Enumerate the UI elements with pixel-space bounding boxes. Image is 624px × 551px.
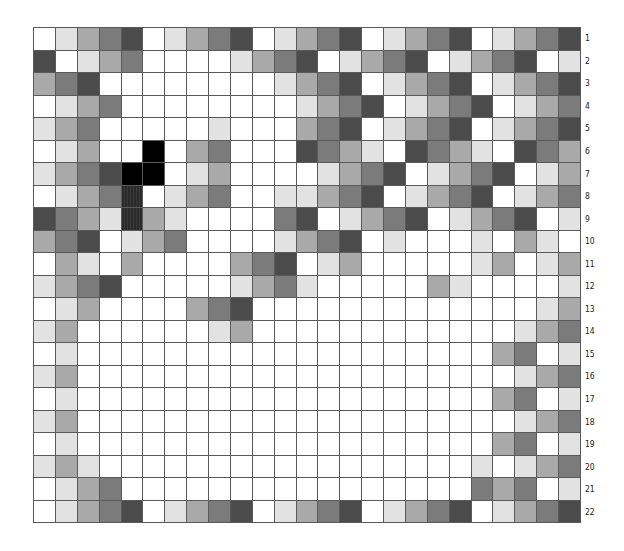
grid-cell <box>450 411 472 434</box>
row-label: 13 <box>585 298 611 321</box>
grid-cell <box>209 411 231 434</box>
grid-cell <box>428 51 450 74</box>
grid-cell <box>122 208 144 231</box>
grid-cell <box>56 433 78 456</box>
grid-cell <box>472 28 494 51</box>
grid-cell <box>428 456 450 479</box>
grid-cell <box>34 96 56 119</box>
grid-cell <box>231 28 253 51</box>
grid-cell <box>406 141 428 164</box>
grid-cell <box>384 118 406 141</box>
grid-cell <box>165 231 187 254</box>
grid-cell <box>165 208 187 231</box>
grid-cell <box>231 298 253 321</box>
grid-cell <box>187 186 209 209</box>
grid-cell <box>34 388 56 411</box>
grid-cell <box>559 208 581 231</box>
grid-cell <box>340 208 362 231</box>
row-label: 21 <box>585 478 611 501</box>
grid-cell <box>187 118 209 141</box>
grid-cell <box>384 456 406 479</box>
grid-cell <box>559 411 581 434</box>
grid-cell <box>122 478 144 501</box>
grid-cell <box>318 118 340 141</box>
grid-cell <box>384 388 406 411</box>
row-label: 19 <box>585 433 611 456</box>
grid-cell <box>143 478 165 501</box>
grid-cell <box>143 186 165 209</box>
grid-cell <box>362 433 384 456</box>
grid-cell <box>143 298 165 321</box>
grid-cell <box>122 343 144 366</box>
grid-cell <box>78 501 100 524</box>
grid-cell <box>537 298 559 321</box>
grid-cell <box>450 73 472 96</box>
grid-cell <box>428 141 450 164</box>
grid-cell <box>318 231 340 254</box>
grid-cell <box>187 456 209 479</box>
grid-cell <box>340 96 362 119</box>
grid-cell <box>165 276 187 299</box>
grid-cell <box>122 276 144 299</box>
grid-cell <box>78 186 100 209</box>
grid-cell <box>78 96 100 119</box>
grid-cell <box>450 321 472 344</box>
grid-cell <box>340 388 362 411</box>
grid-cell <box>537 253 559 276</box>
grid-cell <box>122 388 144 411</box>
grid-cell <box>318 388 340 411</box>
grid-cell <box>143 28 165 51</box>
grid-cell <box>143 501 165 524</box>
grid-cell <box>297 456 319 479</box>
row-label: 5 <box>585 117 611 140</box>
grid-cell <box>253 411 275 434</box>
grid-cell <box>56 118 78 141</box>
grid-cell <box>318 343 340 366</box>
grid-cell <box>493 231 515 254</box>
grid-cell <box>34 208 56 231</box>
grid-cell <box>100 28 122 51</box>
grid-cell <box>56 253 78 276</box>
grid-cell <box>340 433 362 456</box>
grid-cell <box>56 366 78 389</box>
grid-cell <box>78 478 100 501</box>
grid-cell <box>340 501 362 524</box>
grid-cell <box>515 321 537 344</box>
row-label: 8 <box>585 185 611 208</box>
grid-cell <box>428 411 450 434</box>
grid-cell <box>384 51 406 74</box>
grid-cell <box>187 411 209 434</box>
grid-cell <box>56 343 78 366</box>
grid-cell <box>165 411 187 434</box>
grid-cell <box>340 298 362 321</box>
grid-cell <box>187 163 209 186</box>
grid-cell <box>537 411 559 434</box>
grid-cell <box>56 456 78 479</box>
grid-cell <box>472 253 494 276</box>
grid-cell <box>340 366 362 389</box>
grid-cell <box>472 51 494 74</box>
grid-cell <box>34 141 56 164</box>
grid-cell <box>384 276 406 299</box>
grid-cell <box>297 276 319 299</box>
grid-cell <box>515 51 537 74</box>
grid-cell <box>100 141 122 164</box>
grid-cell <box>515 231 537 254</box>
grid-cell <box>165 501 187 524</box>
grid-cell <box>384 73 406 96</box>
grid-cell <box>493 298 515 321</box>
grid-cell <box>472 366 494 389</box>
grid-cell <box>428 388 450 411</box>
grid-cell <box>493 343 515 366</box>
grid-cell <box>165 478 187 501</box>
grid-cell <box>450 28 472 51</box>
grid-cell <box>209 73 231 96</box>
grid-cell <box>472 343 494 366</box>
grid-cell <box>297 28 319 51</box>
grid-cell <box>100 343 122 366</box>
grid-cell <box>537 433 559 456</box>
grid-cell <box>428 478 450 501</box>
grid-cell <box>78 388 100 411</box>
grid-cell <box>275 478 297 501</box>
grid-cell <box>362 478 384 501</box>
